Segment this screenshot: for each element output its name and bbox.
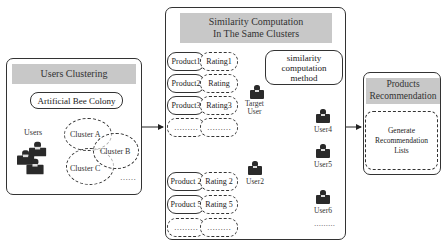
users-clustering-title: Users Clustering [12,64,136,84]
method-line2: computation [282,63,327,73]
artificial-bee-colony-box: Artificial Bee Colony [30,92,123,109]
generate-line2: Recommendation [375,136,428,146]
recommendation-title-line2: Recommendation [366,91,440,103]
rating-2-pill: Rating [200,74,238,93]
products-recommendation-title: Products Recommendation [366,78,440,104]
rating-3-pill: Rating3 [200,96,238,115]
target-user-line2: User [245,108,264,116]
generate-line1: Generate [388,126,415,136]
user6-icon [316,190,330,204]
rating-1-pill: Rating1 [200,52,238,71]
similarity-title-line2: In The Same Clusters [180,28,332,40]
cluster-b-label: Cluster B [100,147,130,156]
user-group-icon [17,140,47,176]
target-user-label: Target User [245,100,264,116]
user2-label: User2 [246,177,264,186]
clusters-more: …… [120,173,136,182]
users-label: Users [24,128,42,137]
recommendation-title-line1: Products [366,79,440,91]
similarity-computation-title: Similarity Computation In The Same Clust… [180,13,332,43]
cluster-a-label: Cluster A [70,130,100,139]
similarity-title-line1: Similarity Computation [180,16,332,28]
target-user-icon [250,85,264,99]
generate-line3: Lists [394,146,409,156]
user4-icon [316,109,330,123]
user5-label: User5 [314,160,332,169]
user4-label: User4 [314,125,332,134]
cluster-c-label: Cluster C [70,164,100,173]
generate-lists-box: Generate Recommendation Lists [365,111,438,170]
similarity-method-box: similarity computation method [265,50,343,85]
user5-icon [316,144,330,158]
rating-more-pill: ……… [200,118,238,137]
rating-5-pill: Rating 5 [200,195,238,214]
rating-more-b-pill: ……… [200,218,238,237]
users-more: ……… [314,220,335,228]
method-line3: method [291,73,318,83]
method-line1: similarity [287,53,322,63]
rating-2b-pill: Rating 2 [200,172,238,191]
user6-label: User6 [314,206,332,215]
user2-icon [248,161,262,175]
